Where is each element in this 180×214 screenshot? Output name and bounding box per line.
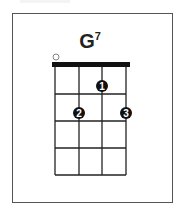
finger-dot-2: 2 — [73, 107, 85, 119]
finger-label: 2 — [76, 108, 82, 119]
finger-label: 1 — [99, 81, 105, 92]
finger-dot-1: 1 — [96, 80, 108, 92]
finger-dot-3: 3 — [120, 107, 132, 119]
finger-label: 3 — [123, 108, 129, 119]
nut-bar — [52, 62, 130, 67]
open-string-icon — [53, 54, 59, 60]
chord-diagram: 1 2 3 — [0, 0, 180, 214]
